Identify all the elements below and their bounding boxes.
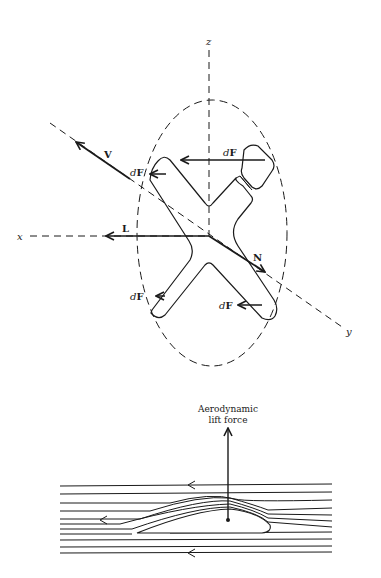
flow-arrow-left [100,516,107,524]
rotor-force-diagram: z x y V L N dF dF dF dF [17,36,352,366]
z-axis-label: z [205,36,212,47]
rotor-disk-ellipse [137,100,287,366]
velocity-vector-V [76,142,130,179]
velocity-label: V [103,149,112,160]
x-axis-label: x [17,231,23,242]
normal-label: N [253,252,262,263]
blade-tip-top-right [241,145,274,189]
lift-force-label-line1: Aerodynamic [197,404,258,414]
force-label-top: dF [223,147,237,158]
lift-force-label-line2: lift force [209,415,248,425]
force-label-left: dF [130,167,144,178]
airfoil-streamline-diagram: Aerodynamic lift force [60,404,332,557]
force-label-bottom-right: dF [219,300,233,311]
y-axis-label: y [345,326,352,337]
lift-label: L [122,223,129,234]
center-of-pressure-dot [226,518,230,522]
force-label-bottom-left: dF [130,291,144,302]
aerodynamics-diagram: z x y V L N dF dF dF dF [0,0,381,578]
